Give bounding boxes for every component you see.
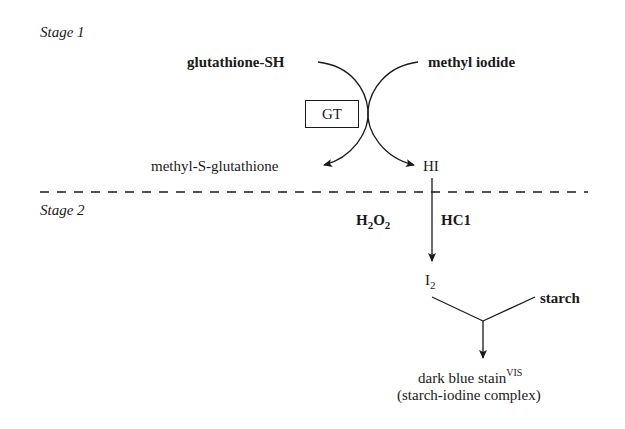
reaction-diagram: Stage 1 glutathione-SH methyl iodide GT … — [0, 0, 625, 429]
product-dark-blue-stain-text: dark blue stain — [418, 370, 506, 386]
diagram-lines — [0, 0, 625, 429]
cosubstrate-starch: starch — [540, 291, 580, 306]
product-dark-blue-stain: dark blue stainVIS — [418, 371, 522, 386]
reagent-h2o2: H2O2 — [356, 213, 390, 228]
reagent-h2o2-h: H — [356, 212, 368, 228]
line-I2-merge — [432, 297, 483, 321]
enzyme-label: GT — [322, 106, 342, 123]
reagent-h2o2-sub2: 2 — [385, 219, 391, 231]
stage-1-label: Stage 1 — [40, 25, 85, 40]
product-methyl-s-glutathione: methyl-S-glutathione — [151, 159, 278, 174]
product-HI: HI — [423, 159, 439, 174]
reagent-h2o2-o: O — [373, 212, 385, 228]
product-note: (starch-iodine complex) — [397, 388, 541, 403]
enzyme-gt-box: GT — [305, 100, 359, 128]
intermediate-I2-sub: 2 — [430, 279, 436, 291]
reagent-hcl: HC1 — [441, 213, 471, 228]
stage-2-label: Stage 2 — [40, 203, 85, 218]
product-vis-superscript: VIS — [506, 367, 522, 378]
curve-methyliodide-to-HI — [368, 62, 418, 165]
line-starch-merge — [483, 297, 535, 321]
intermediate-I2: I2 — [425, 273, 436, 288]
reactant-methyl-iodide: methyl iodide — [428, 55, 515, 70]
reactant-glutathione-sh: glutathione-SH — [187, 55, 285, 70]
